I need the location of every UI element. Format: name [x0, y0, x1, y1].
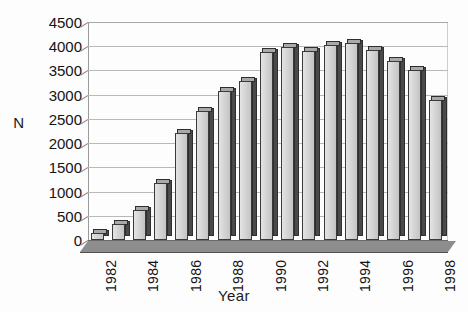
- bar-front-face: [91, 233, 104, 240]
- bar-front-face: [154, 183, 167, 240]
- bar-side-face: [294, 44, 299, 236]
- bar: [218, 86, 236, 240]
- bar-front-face: [429, 100, 442, 240]
- y-axis-tick-label: 0: [28, 232, 82, 249]
- bar-front-face: [324, 45, 337, 240]
- bar-front-face: [239, 81, 252, 240]
- x-axis-title: Year: [0, 287, 468, 304]
- bar-front-face: [175, 133, 188, 240]
- bar-side-face: [400, 58, 405, 236]
- bar-side-face: [188, 130, 193, 236]
- y-axis-tick-label: 1000: [28, 183, 82, 200]
- bar: [154, 178, 172, 240]
- bar-front-face: [345, 43, 358, 240]
- bar: [112, 219, 130, 240]
- bar-front-face: [196, 111, 209, 240]
- bar-front-face: [260, 52, 273, 240]
- bar-side-face: [315, 48, 320, 236]
- chart-canvas: N 050010001500200025003000350040004500 1…: [0, 0, 468, 312]
- bar: [387, 56, 405, 240]
- y-axis-tick-label: 3000: [28, 86, 82, 103]
- bar-side-face: [273, 49, 278, 236]
- bar-side-face: [421, 67, 426, 236]
- bar: [281, 42, 299, 240]
- bar: [91, 228, 109, 240]
- bar-side-face: [209, 108, 214, 236]
- floor-top-edge: [88, 240, 448, 241]
- bar: [302, 46, 320, 240]
- bar-side-face: [146, 207, 151, 236]
- bar-front-face: [387, 61, 400, 240]
- bar: [239, 76, 257, 240]
- bar-front-face: [302, 51, 315, 240]
- bar-front-face: [112, 224, 125, 240]
- bar-series: [88, 22, 448, 240]
- bar-front-face: [366, 50, 379, 240]
- bar-front-face: [281, 47, 294, 240]
- bar-front-face: [133, 210, 146, 240]
- bar: [196, 106, 214, 240]
- bar-side-face: [252, 78, 257, 236]
- y-axis-tick-label: 4000: [28, 38, 82, 55]
- bar: [408, 65, 426, 240]
- y-axis-tick-label: 2000: [28, 135, 82, 152]
- bar: [133, 205, 151, 240]
- y-axis-tick-labels: 050010001500200025003000350040004500: [28, 0, 82, 312]
- bar-front-face: [408, 70, 421, 240]
- bar: [345, 38, 363, 240]
- y-axis-tick-label: 4500: [28, 14, 82, 31]
- y-axis-tick-label: 3500: [28, 62, 82, 79]
- bar-side-face: [379, 47, 384, 236]
- bar-side-face: [167, 180, 172, 236]
- y-axis-tick-label: 2500: [28, 110, 82, 127]
- bar: [175, 128, 193, 240]
- bar-front-face: [218, 91, 231, 240]
- y-axis-tick-label: 500: [28, 207, 82, 224]
- bar: [429, 95, 447, 240]
- bar-side-face: [337, 42, 342, 236]
- y-axis-title: N: [8, 114, 30, 131]
- bar: [324, 40, 342, 240]
- y-axis-tick-label: 1500: [28, 159, 82, 176]
- bar: [260, 47, 278, 240]
- bar-side-face: [358, 40, 363, 236]
- bar-side-face: [442, 97, 447, 236]
- bar: [366, 45, 384, 240]
- bar-side-face: [231, 88, 236, 236]
